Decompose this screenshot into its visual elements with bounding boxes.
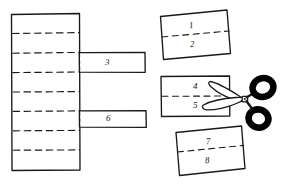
piece-top: [161, 10, 231, 60]
tab-6-outline: [79, 111, 146, 128]
scissors-upper-handle-ring: [250, 75, 276, 99]
folded-strip: [12, 14, 81, 171]
scissors-pivot-screw: [244, 98, 246, 100]
figure-drawing: [0, 0, 281, 184]
piece-bottom-label-8: 8: [205, 156, 210, 165]
piece-top-label-1: 1: [189, 21, 194, 30]
piece-top-outline: [161, 10, 231, 60]
scissors-lower-handle-ring: [246, 107, 271, 130]
scissors: [202, 75, 275, 130]
piece-middle-label-4: 4: [193, 82, 198, 91]
tab-6-label: 6: [106, 114, 111, 123]
piece-bottom-outline: [176, 126, 245, 176]
figure-canvas: 3 6 1 2 4 5 7 8: [0, 0, 281, 184]
tab-3-label: 3: [105, 58, 110, 67]
tab-3-outline: [79, 52, 145, 72]
tab-3: [79, 52, 145, 72]
piece-bottom-label-7: 7: [206, 137, 211, 146]
tab-6: [79, 111, 146, 128]
piece-top-label-2: 2: [190, 40, 195, 49]
piece-bottom: [176, 126, 245, 176]
piece-middle-label-5: 5: [193, 101, 198, 110]
